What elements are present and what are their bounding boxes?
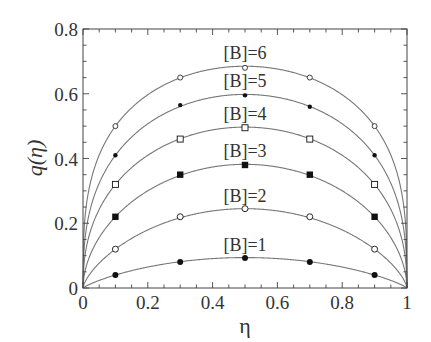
data-point-marker — [371, 214, 377, 220]
data-point-marker — [372, 181, 378, 187]
curve-labels: [B]=6[B]=5[B]=4[B]=3[B]=2[B]=1 — [223, 43, 266, 254]
curve-series-5 — [83, 258, 407, 288]
curve-series-0 — [83, 66, 407, 288]
data-point-marker — [177, 136, 183, 142]
curve-label: [B]=4 — [223, 104, 266, 124]
x-axis-title: η — [239, 313, 251, 338]
y-tick-label: 0 — [69, 278, 79, 299]
curve-label: [B]=3 — [223, 141, 266, 161]
data-point-marker — [177, 259, 183, 265]
curves — [83, 66, 407, 288]
data-point-marker — [372, 124, 377, 129]
x-tick-label: 0 — [78, 292, 88, 313]
data-point-marker — [242, 255, 248, 261]
y-tick-label: 0.2 — [54, 213, 78, 234]
data-point-marker — [372, 272, 378, 278]
data-point-marker — [307, 75, 312, 80]
x-tick-label: 0.8 — [330, 292, 354, 313]
data-point-marker — [113, 153, 117, 157]
data-point-marker — [112, 272, 118, 278]
data-point-marker — [178, 75, 183, 80]
y-axis-title: q(η) — [22, 140, 47, 177]
data-point-marker — [242, 206, 248, 212]
y-tick-label: 0.8 — [54, 19, 78, 40]
y-tick-label: 0.6 — [54, 84, 78, 105]
data-point-marker — [112, 181, 118, 187]
curve-label: [B]=1 — [223, 235, 266, 255]
data-point-marker — [307, 171, 313, 177]
data-point-marker — [307, 136, 313, 142]
data-point-marker — [113, 124, 118, 129]
y-tick-label: 0.4 — [54, 149, 78, 170]
data-point-marker — [178, 103, 182, 107]
data-point-marker — [112, 246, 118, 252]
data-point-marker — [242, 125, 248, 131]
chart: 00.20.40.60.8100.20.40.60.8 [B]=6[B]=5[B… — [0, 0, 431, 342]
x-tick-label: 1 — [402, 292, 412, 313]
data-point-marker — [372, 153, 376, 157]
data-point-marker — [177, 214, 183, 220]
data-point-marker — [242, 162, 248, 168]
curve-label: [B]=6 — [223, 43, 266, 63]
data-point-marker — [243, 93, 247, 97]
curve-series-3 — [83, 164, 407, 288]
x-tick-label: 0.4 — [201, 292, 225, 313]
data-point-marker — [307, 214, 313, 220]
data-point-marker — [243, 65, 248, 70]
data-point-marker — [177, 171, 183, 177]
data-point-marker — [372, 246, 378, 252]
data-point-marker — [112, 214, 118, 220]
curve-label: [B]=5 — [223, 71, 266, 91]
data-point-marker — [308, 105, 312, 109]
x-tick-label: 0.6 — [266, 292, 290, 313]
curve-label: [B]=2 — [223, 186, 266, 206]
data-point-marker — [307, 259, 313, 265]
x-tick-label: 0.2 — [136, 292, 160, 313]
